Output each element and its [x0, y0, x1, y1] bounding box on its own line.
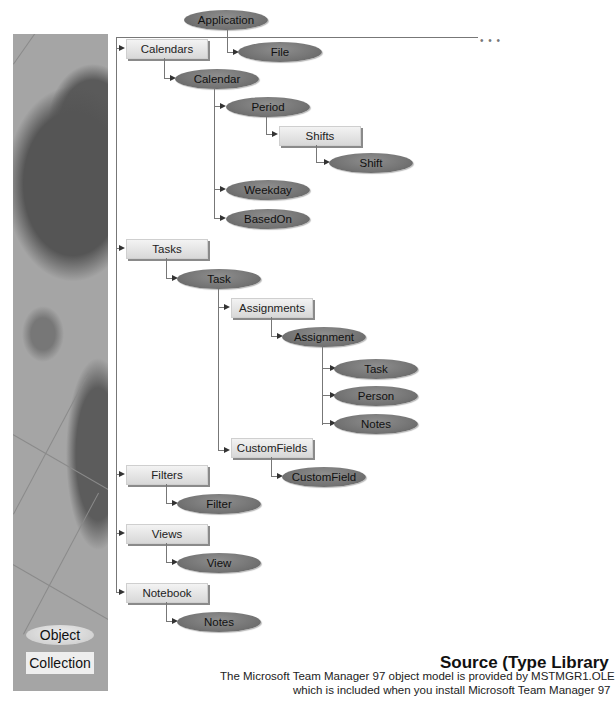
node-assignment[interactable]: Assignment: [282, 327, 366, 347]
legend-collection: Collection: [26, 652, 94, 674]
node-notebook[interactable]: Notebook: [126, 583, 208, 603]
node-filters[interactable]: Filters: [126, 465, 208, 485]
node-filter[interactable]: Filter: [177, 494, 261, 514]
arrow-icon: [119, 45, 125, 51]
connector: [316, 145, 317, 162]
node-file[interactable]: File: [238, 42, 322, 62]
connector: [214, 89, 215, 219]
connector: [271, 457, 272, 476]
node-person[interactable]: Person: [334, 386, 418, 406]
node-application[interactable]: Application: [184, 10, 268, 30]
connector: [166, 602, 167, 621]
connector: [166, 484, 167, 503]
connector: [164, 58, 165, 78]
arrow-icon: [119, 471, 125, 477]
node-view[interactable]: View: [177, 553, 261, 573]
node-weekday[interactable]: Weekday: [226, 180, 310, 200]
node-task[interactable]: Task: [177, 269, 261, 289]
connector: [266, 117, 267, 134]
node-basedon[interactable]: BasedOn: [226, 209, 310, 229]
connector: [322, 347, 323, 425]
source-description-line1: The Microsoft Team Manager 97 object mod…: [220, 670, 615, 682]
connector: [271, 317, 272, 336]
source-description-line2: which is included when you install Micro…: [293, 684, 610, 696]
arrow-icon: [119, 589, 125, 595]
node-customfield[interactable]: CustomField: [282, 467, 366, 487]
node-shift[interactable]: Shift: [329, 153, 413, 173]
node-customfields[interactable]: CustomFields: [231, 438, 313, 458]
legend-object: Object: [26, 625, 94, 645]
connector: [218, 289, 219, 450]
main-trunk-line: [116, 37, 117, 593]
node-assignment-task[interactable]: Task: [334, 359, 418, 379]
arrow-icon: [224, 447, 230, 453]
node-views[interactable]: Views: [126, 524, 208, 544]
node-assignments[interactable]: Assignments: [231, 298, 313, 318]
arrow-icon: [224, 304, 230, 310]
more-indicator: • • •: [480, 35, 501, 46]
world-map-sidebar: [13, 34, 108, 691]
connector: [166, 543, 167, 562]
arrow-icon: [272, 131, 278, 137]
node-notebook-notes[interactable]: Notes: [177, 612, 261, 632]
top-border-line: [116, 37, 478, 38]
connector: [166, 258, 167, 278]
node-calendar[interactable]: Calendar: [175, 69, 259, 89]
node-shifts[interactable]: Shifts: [279, 126, 361, 146]
node-calendars[interactable]: Calendars: [126, 39, 208, 59]
arrow-icon: [119, 245, 125, 251]
node-tasks[interactable]: Tasks: [126, 239, 208, 259]
connector: [227, 30, 228, 52]
node-period[interactable]: Period: [226, 97, 310, 117]
arrow-icon: [119, 530, 125, 536]
node-assignment-notes[interactable]: Notes: [334, 414, 418, 434]
